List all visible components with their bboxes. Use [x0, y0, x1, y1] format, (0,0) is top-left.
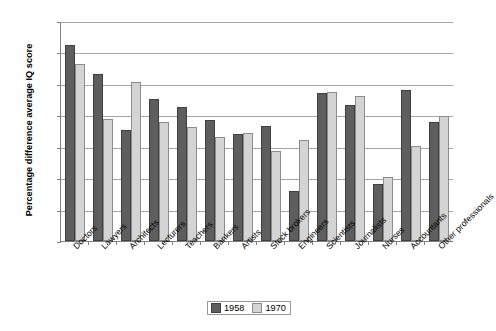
- x-axis-tick-mark: [144, 241, 145, 245]
- bar-group: [117, 22, 145, 241]
- plot-area: 0.002.004.006.008.0010.0012.0014.00: [60, 22, 453, 242]
- bar-1970: [159, 122, 169, 241]
- bar-group: [285, 22, 313, 241]
- series-1958-swatch: [211, 303, 221, 313]
- bar-1958: [261, 126, 271, 242]
- bar-1970: [411, 146, 421, 241]
- bar-group: [313, 22, 341, 241]
- bar-1970: [355, 96, 365, 241]
- bar-1958: [93, 74, 103, 241]
- legend-item-1958: 1958: [211, 303, 244, 313]
- bar-group: [257, 22, 285, 241]
- bar-group: [145, 22, 173, 241]
- x-axis-tick-mark: [200, 241, 201, 245]
- bar-group: [425, 22, 453, 241]
- bar-group: [341, 22, 369, 241]
- bar-1958: [65, 45, 75, 241]
- legend-item-1970: 1970: [252, 303, 285, 313]
- bar-1970: [299, 140, 309, 241]
- bar-1970: [75, 64, 85, 241]
- legend-label-1958: 1958: [224, 303, 244, 313]
- bar-1970: [327, 92, 337, 241]
- bar-groups: [61, 22, 453, 241]
- bar-group: [229, 22, 257, 241]
- x-axis-tick-mark: [116, 241, 117, 245]
- bar-group: [173, 22, 201, 241]
- chart-legend: 1958 1970: [207, 301, 291, 315]
- bar-group: [201, 22, 229, 241]
- x-axis-tick-mark: [172, 241, 173, 245]
- x-axis-tick-mark: [256, 241, 257, 245]
- x-axis-tick-mark: [88, 241, 89, 245]
- bar-1958: [401, 90, 411, 241]
- y-axis-title: Percentage difference average IQ score: [24, 5, 34, 255]
- bar-group: [89, 22, 117, 241]
- bar-group: [397, 22, 425, 241]
- bar-1970: [215, 137, 225, 241]
- y-axis-tick-mark: [57, 242, 61, 243]
- legend-label-1970: 1970: [265, 303, 285, 313]
- bar-1970: [271, 151, 281, 241]
- bar-group: [369, 22, 397, 241]
- bar-1970: [131, 82, 141, 242]
- bar-1970: [187, 127, 197, 241]
- series-1970-swatch: [252, 303, 262, 313]
- x-axis-tick-mark: [228, 241, 229, 245]
- bar-1970: [103, 119, 113, 241]
- bar-1970: [243, 133, 253, 241]
- bar-group: [61, 22, 89, 241]
